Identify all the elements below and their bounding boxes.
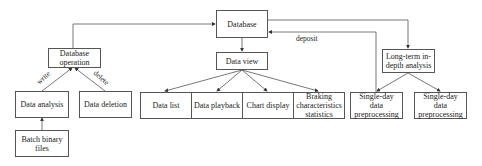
edge-longterm-to-singleday1 — [377, 73, 408, 91]
edge-label-deposit: deposit — [296, 35, 318, 43]
node-data-view: Data view — [216, 52, 268, 70]
edge-database-to-longterm — [268, 20, 408, 48]
edge-longterm-to-singleday2 — [408, 73, 440, 91]
node-chart-display: Chart display — [242, 92, 294, 119]
node-long-term-analysis: Long-term in-depth analysis — [382, 49, 435, 73]
node-braking-statistics: Braking characteristics statistics — [293, 92, 345, 119]
node-data-list: Data list — [140, 92, 192, 119]
node-database: Database — [216, 10, 268, 38]
edge-dataview-to-braking — [242, 70, 318, 91]
node-data-playback: Data playback — [191, 92, 243, 119]
node-single-day-1: Single-day data preprocessing — [350, 92, 403, 119]
node-database-operation: Database operation — [48, 48, 101, 68]
edge-dbop-to-database — [73, 24, 215, 48]
edge-dataview-to-datalist — [165, 70, 242, 91]
edge-singleday-deposit — [269, 32, 376, 92]
node-data-analysis: Data analysis — [15, 91, 69, 118]
node-batch-binary-files: Batch binary files — [15, 130, 69, 157]
node-data-deletion: Data deletion — [79, 91, 132, 118]
node-single-day-2: Single-day data preprocessing — [414, 92, 467, 119]
